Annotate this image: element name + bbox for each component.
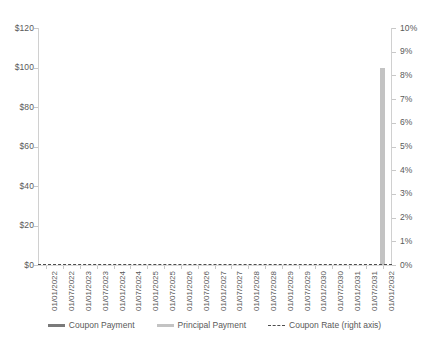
right-axis-tick-label: 4% bbox=[400, 166, 428, 175]
bar-principal-payment bbox=[380, 68, 385, 266]
x-axis-tick-mark bbox=[349, 266, 350, 269]
right-axis-tick-mark bbox=[392, 28, 396, 29]
x-axis-tick-mark bbox=[130, 266, 131, 269]
right-axis-tick-label: 8% bbox=[400, 71, 428, 80]
right-axis-tick-label: 9% bbox=[400, 47, 428, 56]
right-axis-tick-mark bbox=[392, 75, 396, 76]
x-axis-tick-label: 01/01/2032 bbox=[387, 271, 396, 311]
left-axis-tick-mark bbox=[34, 265, 38, 266]
legend-item[interactable]: Principal Payment bbox=[157, 320, 247, 330]
legend-label: Coupon Rate (right axis) bbox=[289, 320, 381, 330]
x-axis-tick-label: 01/01/2030 bbox=[319, 271, 328, 311]
bar-swatch-icon bbox=[157, 324, 174, 327]
x-axis-tick-mark bbox=[248, 266, 249, 269]
x-axis-tick-label: 01/07/2028 bbox=[269, 271, 278, 311]
x-axis-tick-label: 01/01/2029 bbox=[286, 271, 295, 311]
x-axis-tick-label: 01/01/2022 bbox=[50, 271, 59, 311]
right-axis-tick-label: 6% bbox=[400, 118, 428, 127]
right-axis-tick-label: 3% bbox=[400, 189, 428, 198]
x-axis-tick-label: 01/07/2030 bbox=[336, 271, 345, 311]
right-axis-tick-label: 10% bbox=[400, 24, 428, 33]
right-axis-tick-mark bbox=[392, 123, 396, 124]
x-axis-tick-label: 01/01/2023 bbox=[84, 271, 93, 311]
x-axis-tick-mark bbox=[366, 266, 367, 269]
right-axis-tick-mark bbox=[392, 218, 396, 219]
x-axis-tick-mark bbox=[114, 266, 115, 269]
legend-label: Coupon Payment bbox=[69, 320, 135, 330]
x-axis-tick-mark bbox=[265, 266, 266, 269]
legend-item[interactable]: Coupon Rate (right axis) bbox=[268, 320, 381, 330]
right-axis-tick-label: 1% bbox=[400, 237, 428, 246]
x-axis-tick-mark bbox=[215, 266, 216, 269]
x-axis-tick-label: 01/07/2027 bbox=[235, 271, 244, 311]
right-axis-tick-mark bbox=[392, 170, 396, 171]
right-axis-tick-mark bbox=[392, 147, 396, 148]
left-axis-tick-label: $120 bbox=[0, 24, 34, 33]
bar-swatch-icon bbox=[48, 324, 65, 327]
left-axis-tick-label: $0 bbox=[0, 261, 34, 270]
x-axis-tick-mark bbox=[80, 266, 81, 269]
right-axis-tick-label: 2% bbox=[400, 213, 428, 222]
right-axis-tick-mark bbox=[392, 265, 396, 266]
x-axis-tick-label: 01/01/2028 bbox=[252, 271, 261, 311]
right-axis-tick-label: 7% bbox=[400, 95, 428, 104]
x-axis-tick-mark bbox=[63, 266, 64, 269]
coupon-rate-series-line bbox=[38, 264, 392, 265]
x-axis-tick-label: 01/07/2026 bbox=[202, 271, 211, 311]
x-axis-tick-label: 01/07/2022 bbox=[67, 271, 76, 311]
x-axis-tick-mark bbox=[198, 266, 199, 269]
x-axis-tick-mark bbox=[164, 266, 165, 269]
plot-area bbox=[38, 28, 391, 265]
x-axis-tick-label: 01/01/2026 bbox=[185, 271, 194, 311]
left-axis-tick-label: $40 bbox=[0, 182, 34, 191]
x-axis-tick-label: 01/01/2025 bbox=[151, 271, 160, 311]
left-axis-tick-label: $100 bbox=[0, 63, 34, 72]
left-axis-tick-label: $20 bbox=[0, 221, 34, 230]
x-axis-tick-mark bbox=[315, 266, 316, 269]
x-axis-tick-mark bbox=[147, 266, 148, 269]
x-axis-tick-mark bbox=[181, 266, 182, 269]
x-axis-tick-label: 01/07/2025 bbox=[168, 271, 177, 311]
bond-cashflow-chart: $120$100$80$60$40$20$0 10%9%8%7%6%5%4%3%… bbox=[0, 0, 429, 344]
x-axis-tick-mark bbox=[299, 266, 300, 269]
right-axis-tick-mark bbox=[392, 52, 396, 53]
chart-legend: Coupon PaymentPrincipal PaymentCoupon Ra… bbox=[0, 320, 429, 330]
x-axis-tick-mark bbox=[282, 266, 283, 269]
left-axis-tick-label: $80 bbox=[0, 103, 34, 112]
right-axis-tick-mark bbox=[392, 241, 396, 242]
x-axis-tick-mark bbox=[46, 266, 47, 269]
x-axis-tick-label: 01/07/2024 bbox=[134, 271, 143, 311]
right-axis-tick-label: 0% bbox=[400, 261, 428, 270]
x-axis-tick-label: 01/01/2024 bbox=[118, 271, 127, 311]
x-axis-tick-mark bbox=[97, 266, 98, 269]
x-axis-tick-mark bbox=[231, 266, 232, 269]
right-axis-tick-mark bbox=[392, 194, 396, 195]
x-axis-tick-mark bbox=[383, 266, 384, 269]
x-axis-tick-mark bbox=[332, 266, 333, 269]
legend-label: Principal Payment bbox=[178, 320, 247, 330]
dashed-line-swatch-icon bbox=[268, 325, 285, 326]
x-axis-tick-label: 01/01/2031 bbox=[353, 271, 362, 311]
x-axis-tick-label: 01/07/2031 bbox=[370, 271, 379, 311]
right-axis-tick-label: 5% bbox=[400, 142, 428, 151]
x-axis-tick-label: 01/07/2029 bbox=[303, 271, 312, 311]
x-axis-tick-label: 01/07/2023 bbox=[101, 271, 110, 311]
right-axis-tick-mark bbox=[392, 99, 396, 100]
legend-item[interactable]: Coupon Payment bbox=[48, 320, 135, 330]
x-axis-tick-label: 01/01/2027 bbox=[219, 271, 228, 311]
left-axis-tick-label: $60 bbox=[0, 142, 34, 151]
